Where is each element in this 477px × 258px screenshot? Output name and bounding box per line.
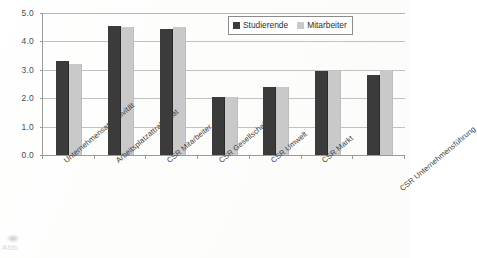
chart-legend: StudierendeMitarbeiter: [228, 16, 353, 35]
legend-item: Studierende: [233, 21, 288, 29]
light-square-swatch: [297, 22, 304, 29]
x-axis-category-label: CSR Unternehmensführung: [398, 124, 477, 193]
bar-group: [56, 13, 81, 155]
x-axis-category-labels: UnternehmensattraktivitätArbeitsplatzatt…: [0, 158, 409, 258]
bar: [173, 27, 186, 155]
bar: [380, 70, 393, 155]
y-axis-tick-label: 5.0: [4, 8, 34, 18]
bar: [56, 61, 69, 155]
legend-item: Mitarbeiter: [297, 21, 347, 29]
bar: [315, 71, 328, 155]
dark-square-swatch: [233, 22, 240, 29]
legend-label: Studierende: [243, 21, 288, 29]
bar-group: [160, 13, 185, 155]
legend-label: Mitarbeiter: [307, 21, 347, 29]
bar: [108, 26, 121, 155]
bar: [121, 27, 134, 155]
bar-group: [108, 13, 133, 155]
cut-off-caption-fragment: Abb.: [2, 243, 20, 252]
y-axis-tick-label: 2.0: [4, 93, 34, 103]
y-axis-tick-label: 3.0: [4, 65, 34, 75]
y-axis-tick-labels: 0.01.02.03.04.05.0: [4, 13, 38, 155]
bar: [367, 75, 380, 155]
y-axis-tick-label: 1.0: [4, 122, 34, 132]
bar-group: [367, 13, 392, 155]
y-axis-tick-label: 4.0: [4, 36, 34, 46]
bar: [160, 29, 173, 155]
bar: [212, 97, 225, 155]
